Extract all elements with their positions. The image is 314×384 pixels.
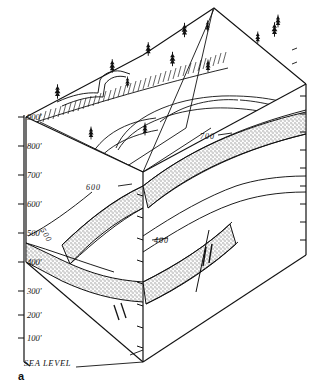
escarpment-hachure-symbol	[36, 52, 228, 124]
tick-label-900: 900'	[27, 112, 42, 122]
anticline-limb-left	[62, 186, 143, 264]
contour-label-600: 600	[86, 183, 101, 192]
tick-label-400: 400'	[27, 257, 42, 267]
figure-panel-label: a	[18, 370, 25, 382]
contour-label-400: 400	[154, 236, 169, 245]
tick-label-800: 800'	[27, 141, 42, 151]
elevation-scale-axis	[24, 115, 30, 366]
tick-label-200: 200'	[27, 310, 42, 320]
block-diagram-canvas: 900' 800' 700' 600' 500' 400' 300' 200' …	[0, 0, 314, 384]
contour-label-700: 700	[200, 132, 215, 141]
meandering-stream-symbol	[57, 71, 130, 106]
elevation-tick-labels: 900' 800' 700' 600' 500' 400' 300' 200' …	[26, 112, 42, 343]
tick-label-600: 600'	[27, 199, 42, 209]
rear-right-edge-ticks	[292, 48, 297, 64]
sea-level-label: SEA LEVEL	[24, 358, 71, 368]
tick-label-700: 700'	[27, 170, 42, 180]
tick-label-100: 100'	[27, 333, 42, 343]
fault-symbol-left	[114, 303, 126, 320]
rock-layer-left-face	[26, 243, 143, 302]
block-diagram-figure: 900' 800' 700' 600' 500' 400' 300' 200' …	[0, 0, 314, 384]
elevation-scale-ticks	[18, 117, 24, 338]
tree-symbols	[55, 15, 281, 140]
tick-label-300: 300'	[26, 286, 42, 296]
center-edge-ticks	[137, 194, 143, 348]
sea-level-leader	[76, 362, 143, 367]
